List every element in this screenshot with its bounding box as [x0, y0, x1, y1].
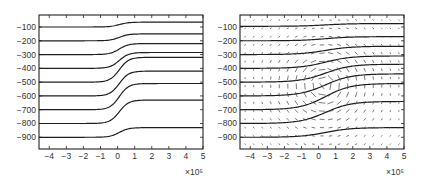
- velocity-arrow: [364, 76, 365, 80]
- x-tick-label: −3: [262, 151, 272, 161]
- velocity-arrow: [390, 118, 391, 120]
- velocity-arrow: [399, 110, 400, 112]
- velocity-arrow: [347, 20, 349, 21]
- velocity-arrow: [355, 109, 358, 112]
- velocity-arrow: [328, 45, 332, 46]
- y-tick-label: −900: [17, 132, 36, 142]
- velocity-arrow: [337, 60, 342, 63]
- velocity-arrow: [262, 60, 263, 62]
- velocity-arrow: [373, 52, 374, 54]
- velocity-arrow: [364, 93, 365, 97]
- velocity-arrow: [253, 52, 254, 54]
- velocity-arrow: [262, 36, 263, 37]
- y-tick-label: −300: [17, 50, 36, 60]
- x-tick-label: −1: [96, 151, 106, 161]
- velocity-arrow: [355, 92, 356, 97]
- x-tick-label: 4: [385, 151, 390, 161]
- velocity-arrow: [245, 52, 246, 54]
- velocity-arrow: [270, 44, 271, 46]
- y-tick-label: −500: [218, 77, 237, 87]
- velocity-arrow: [303, 60, 307, 63]
- velocity-arrow: [311, 68, 317, 72]
- velocity-arrow: [287, 28, 289, 29]
- x-tick-label: 0: [316, 151, 321, 161]
- velocity-arrow: [373, 118, 375, 120]
- velocity-arrow: [373, 135, 375, 136]
- y-tick-label: −400: [218, 63, 237, 73]
- velocity-arrow: [311, 110, 316, 112]
- x-tick-label: 0: [115, 151, 120, 161]
- velocity-arrow: [287, 127, 289, 129]
- velocity-arrow: [318, 77, 325, 79]
- x-exponent-label: ×10⁵: [386, 167, 404, 177]
- velocity-arrow: [381, 28, 382, 29]
- velocity-arrow: [373, 144, 374, 145]
- velocity-arrow: [295, 28, 297, 29]
- velocity-arrow: [347, 75, 349, 81]
- velocity-arrow: [295, 109, 298, 112]
- velocity-arrow: [253, 102, 254, 104]
- velocity-arrow: [278, 110, 280, 113]
- velocity-arrow: [279, 76, 280, 80]
- velocity-arrow: [270, 144, 271, 145]
- velocity-arrow: [390, 44, 391, 46]
- velocity-arrow: [245, 119, 246, 121]
- velocity-arrow: [278, 44, 280, 46]
- velocity-arrow: [295, 127, 298, 129]
- velocity-arrow: [270, 118, 271, 120]
- velocity-arrow: [279, 60, 281, 63]
- velocity-arrow: [262, 135, 263, 136]
- velocity-arrow: [338, 144, 340, 145]
- velocity-arrow: [398, 144, 399, 145]
- velocity-arrow: [253, 61, 254, 63]
- velocity-arrow: [328, 119, 333, 120]
- velocity-arrow: [355, 68, 357, 72]
- velocity-arrow: [270, 127, 271, 129]
- velocity-arrow: [311, 119, 316, 120]
- velocity-arrow: [346, 127, 349, 129]
- velocity-arrow: [381, 68, 382, 71]
- velocity-arrow: [278, 135, 280, 136]
- velocity-arrow: [245, 144, 246, 145]
- velocity-arrow: [304, 28, 307, 29]
- velocity-arrow: [338, 135, 341, 136]
- velocity-arrow: [279, 20, 281, 21]
- velocity-arrow: [364, 118, 366, 120]
- velocity-arrow: [373, 20, 374, 21]
- y-tick-label: −200: [17, 36, 36, 46]
- velocity-arrow: [372, 44, 374, 46]
- velocity-arrow: [253, 119, 254, 121]
- y-tick-label: −300: [218, 50, 237, 60]
- velocity-arrow: [253, 127, 254, 129]
- velocity-arrow: [337, 127, 341, 128]
- figure: −4−3−2−1012345−100−200−300−400−500−600−7…: [0, 0, 421, 186]
- x-tick-label: 2: [350, 151, 355, 161]
- isopycnal-line-7: [39, 84, 203, 110]
- velocity-arrow: [390, 60, 391, 62]
- velocity-arrow: [287, 118, 289, 120]
- velocity-arrow: [390, 144, 391, 145]
- velocity-arrow: [319, 69, 326, 70]
- velocity-arrow: [364, 135, 366, 136]
- isopycnal-line-2: [240, 37, 404, 41]
- velocity-arrow: [346, 109, 350, 112]
- velocity-arrow: [262, 118, 263, 120]
- velocity-arrow: [262, 144, 263, 145]
- velocity-arrow: [346, 44, 349, 46]
- isopycnal-line-5: [39, 57, 203, 82]
- velocity-arrow: [399, 52, 400, 54]
- x-tick-label: 2: [149, 151, 154, 161]
- x-tick-label: −1: [297, 151, 307, 161]
- velocity-arrow: [390, 52, 391, 54]
- velocity-arrow: [295, 44, 298, 46]
- velocity-arrow: [304, 144, 306, 145]
- velocity-arrow: [245, 36, 246, 37]
- velocity-arrow: [328, 75, 333, 80]
- x-tick-label: −4: [245, 151, 255, 161]
- x-tick-label: −4: [44, 151, 54, 161]
- velocity-arrow: [346, 52, 350, 55]
- velocity-arrow: [364, 28, 366, 29]
- velocity-arrow: [270, 20, 271, 21]
- velocity-arrow: [346, 118, 349, 120]
- velocity-arrow: [364, 110, 366, 113]
